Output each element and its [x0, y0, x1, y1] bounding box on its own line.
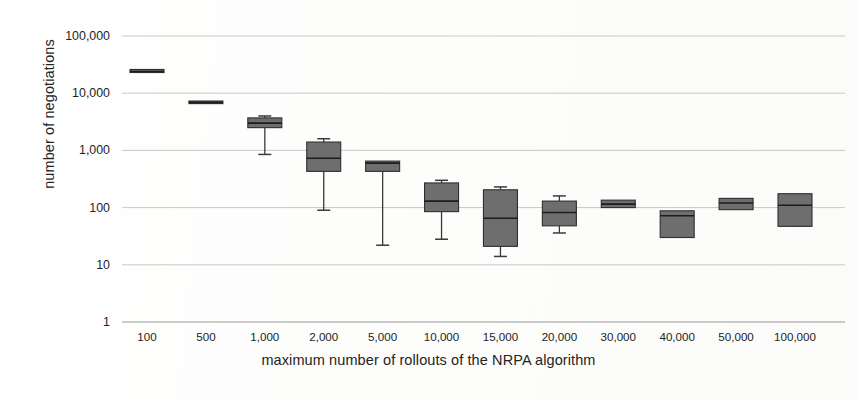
gridlines — [122, 36, 845, 322]
x-tick-label: 20,000 — [542, 330, 577, 343]
box-plot-item — [660, 211, 694, 238]
box-plot-item — [601, 200, 635, 207]
box-plot-item — [778, 194, 812, 227]
box-plot-item — [542, 196, 576, 233]
x-tick-label: 5,000 — [368, 330, 397, 343]
box-quartile-rect — [719, 198, 753, 209]
y-tick-label: 10 — [0, 258, 110, 272]
box-quartile-rect — [660, 211, 694, 238]
x-tick-label: 10,000 — [424, 330, 459, 343]
y-tick-label: 1,000 — [0, 143, 110, 157]
box-quartile-rect — [425, 183, 459, 212]
y-tick-label: 10,000 — [0, 86, 110, 100]
x-tick-label: 15,000 — [483, 330, 518, 343]
x-tick-label: 2,000 — [309, 330, 338, 343]
x-tick-label: 30,000 — [601, 330, 636, 343]
y-tick-label: 1 — [0, 315, 110, 329]
box-quartile-rect — [542, 201, 576, 226]
x-tick-label: 500 — [196, 330, 215, 343]
box-plot-item — [248, 116, 282, 154]
box-series — [130, 69, 812, 256]
box-plot-chart: number of negotiations maximum number of… — [0, 0, 857, 400]
box-plot-item — [719, 198, 753, 209]
x-tick-label: 100 — [137, 330, 156, 343]
y-tick-label: 100,000 — [0, 29, 110, 43]
box-plot-item — [366, 161, 400, 245]
box-plot-item — [307, 139, 341, 210]
x-tick-label: 40,000 — [659, 330, 694, 343]
x-tick-label: 1,000 — [250, 330, 279, 343]
y-tick-label: 100 — [0, 201, 110, 215]
box-plot-item — [189, 101, 223, 104]
x-tick-label: 100,000 — [774, 330, 816, 343]
box-quartile-rect — [778, 194, 812, 227]
x-tick-label: 50,000 — [718, 330, 753, 343]
box-plot-item — [483, 187, 517, 257]
box-quartile-rect — [307, 142, 341, 171]
box-plot-item — [425, 180, 459, 239]
box-plot-item — [130, 69, 164, 72]
